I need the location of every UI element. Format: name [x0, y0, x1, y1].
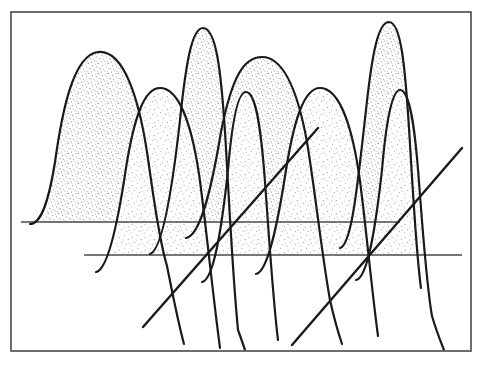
stippled-ridgeline-figure — [0, 0, 483, 365]
figure-page — [0, 0, 483, 365]
